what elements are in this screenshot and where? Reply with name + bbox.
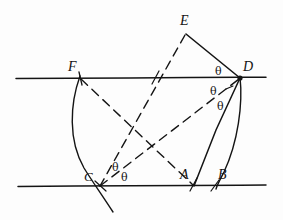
- segment-E-D: [186, 34, 240, 78]
- angle-label-theta-D-lower: θ: [217, 101, 224, 112]
- bottom-parallel-line: [18, 185, 266, 186]
- point-label-E: E: [180, 14, 189, 28]
- point-label-D: D: [243, 60, 253, 74]
- vertex-dot-D: [237, 75, 242, 80]
- angle-label-theta-D-upper: θ: [215, 66, 222, 77]
- top-parallel-line: [16, 77, 266, 78]
- angle-label-theta-C-lower: θ: [121, 172, 128, 183]
- arc-F-C: [72, 76, 113, 212]
- angle-ray-hint-D: [226, 86, 233, 89]
- geometry-figure: [0, 0, 283, 220]
- angle-label-theta-D-middle: θ: [210, 86, 217, 97]
- diagram-canvas: E D F C A B θ θ θ θ θ: [0, 0, 283, 220]
- angle-label-theta-C-upper: θ: [112, 162, 119, 173]
- point-label-F: F: [68, 60, 77, 74]
- point-label-C: C: [84, 170, 93, 183]
- segment-D-A: [194, 78, 240, 186]
- segment-F-A: [81, 79, 193, 185]
- point-label-A: A: [180, 168, 189, 182]
- point-label-B: B: [218, 168, 227, 182]
- tick-A: [190, 178, 197, 191]
